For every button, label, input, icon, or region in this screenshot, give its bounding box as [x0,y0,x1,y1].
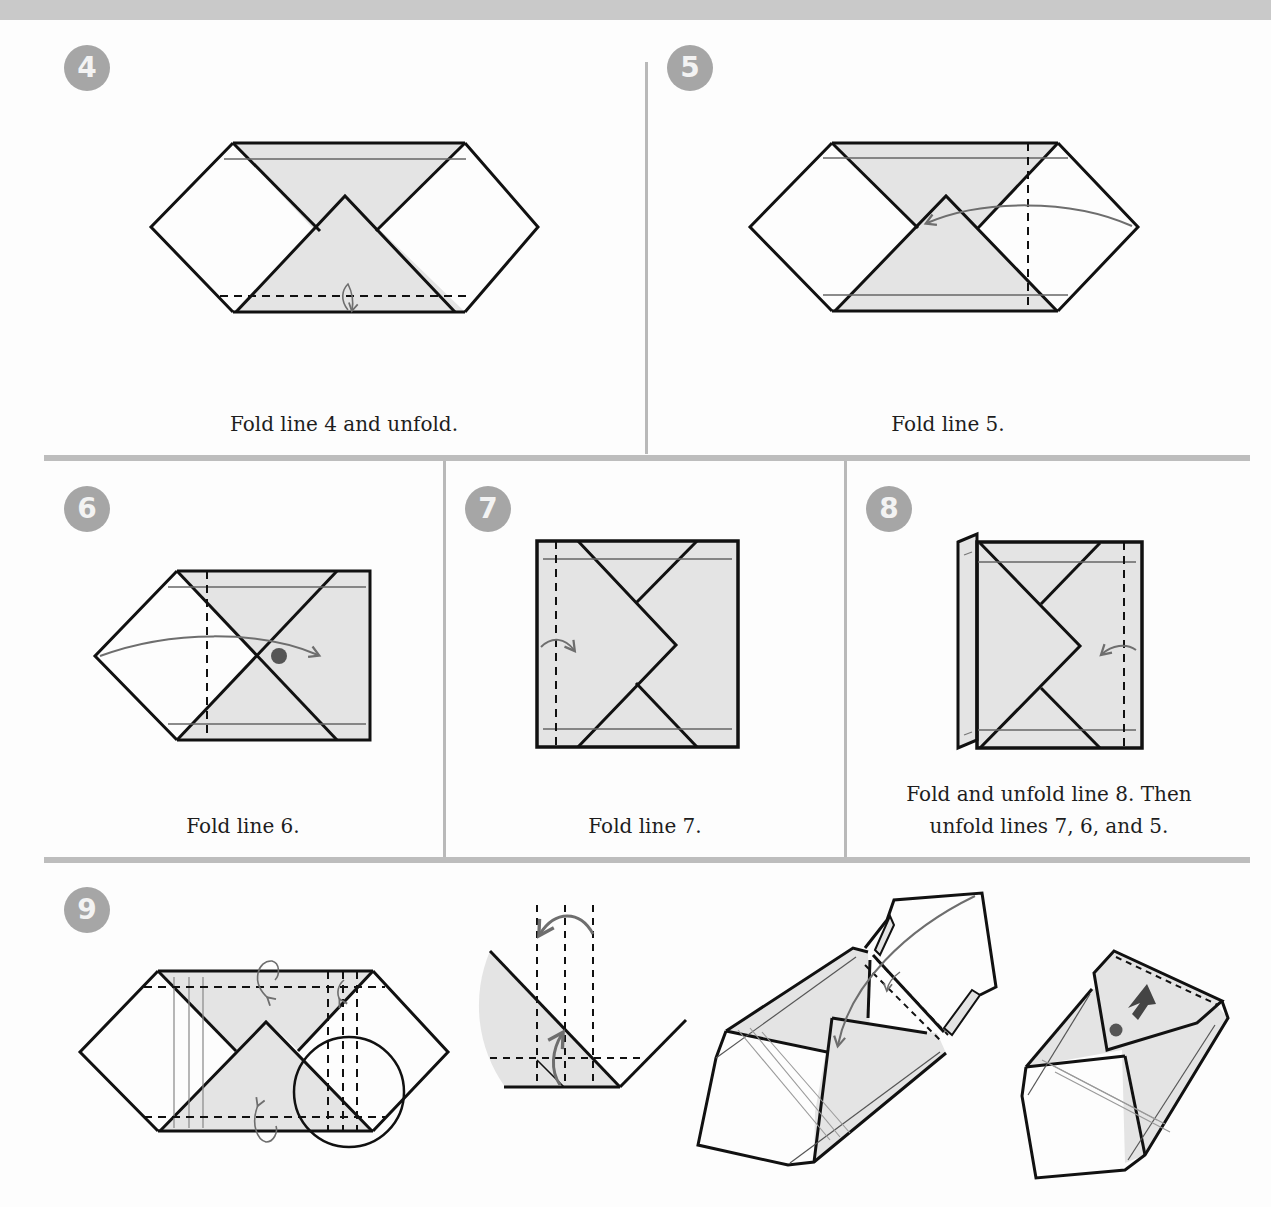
step-9-3d-diagram [698,893,996,1165]
step-5-diagram [750,143,1138,311]
step-9-closeup-diagram [479,905,686,1087]
step-9-finished-diagram [1022,951,1228,1178]
step-9-flat-diagram [80,961,448,1147]
step-4-diagram [151,143,538,312]
step-7-diagram [537,541,738,747]
step-8-diagram [958,534,1142,748]
step-6-diagram [95,571,370,740]
reference-dot-icon [271,648,287,664]
reference-dot-icon [1110,1024,1123,1037]
fold-arrow-icon [540,916,593,934]
